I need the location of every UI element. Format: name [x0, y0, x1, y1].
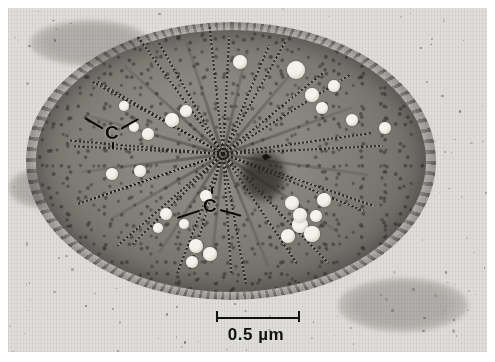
debris-fleck: [444, 151, 447, 153]
debris-fleck: [470, 142, 472, 144]
debris-fleck: [410, 13, 411, 14]
debris-fleck: [166, 313, 168, 316]
label-c-upper: C: [105, 123, 119, 142]
storage-globule: [165, 113, 179, 127]
debris-fleck: [334, 335, 335, 336]
debris-fleck: [282, 8, 284, 10]
storage-globule: [304, 226, 320, 242]
debris-fleck: [425, 346, 426, 347]
debris-fleck: [85, 305, 87, 307]
debris-fleck: [181, 346, 182, 347]
storage-globule: [287, 61, 305, 79]
debris-fleck: [400, 16, 402, 18]
storage-globule: [310, 210, 322, 222]
debris-fleck: [71, 268, 73, 271]
debris-fleck: [448, 188, 450, 189]
storage-globule: [119, 101, 129, 111]
debris-fleck: [441, 95, 444, 97]
debris-fleck: [26, 242, 29, 246]
debris-fleck: [12, 351, 13, 352]
scale-bar-line: [216, 317, 300, 319]
storage-globule: [233, 55, 247, 69]
storage-globule: [328, 80, 340, 92]
debris-fleck: [184, 341, 186, 344]
debris-fleck: [451, 152, 452, 153]
storage-globule: [189, 239, 203, 253]
debris-fleck: [454, 284, 456, 285]
debris-fleck: [482, 105, 484, 106]
debris-fleck: [234, 303, 237, 306]
storage-globule: [160, 208, 172, 220]
scale-bar-cap-right: [298, 311, 300, 322]
debris-fleck: [446, 282, 449, 284]
debris-fleck: [28, 45, 31, 47]
debris-fleck: [37, 11, 39, 12]
debris-fleck: [385, 298, 387, 301]
storage-globule: [305, 88, 319, 102]
debris-fleck: [426, 81, 428, 82]
debris-fleck: [112, 308, 114, 310]
debris-fleck: [484, 267, 485, 269]
storage-globule: [316, 102, 328, 114]
debris-fleck: [434, 294, 436, 297]
debris-fleck: [94, 293, 95, 294]
debris-fleck: [58, 257, 60, 259]
scale-bar: 0.5 µm: [208, 309, 304, 352]
debris-fleck: [27, 310, 28, 311]
debris-fleck: [353, 343, 354, 344]
debris-fleck: [117, 350, 119, 352]
debris-fleck: [176, 336, 178, 337]
debris-fleck: [176, 306, 177, 308]
debris-fleck: [29, 300, 31, 301]
storage-globule: [134, 165, 146, 177]
debris-fleck: [313, 321, 314, 322]
debris-fleck: [65, 255, 67, 257]
debris-fleck: [18, 39, 19, 41]
debris-fleck: [337, 316, 338, 317]
debris-fleck: [475, 294, 476, 295]
debris-fleck: [350, 327, 352, 329]
debris-fleck: [434, 140, 435, 141]
debris-fleck: [115, 288, 117, 290]
debris-fleck: [393, 271, 396, 274]
debris-fleck: [119, 321, 121, 324]
leader-tick: [112, 142, 114, 149]
debris-fleck: [47, 312, 48, 313]
debris-fleck: [391, 309, 393, 311]
debris-fleck: [9, 325, 11, 326]
debris-fleck: [311, 337, 312, 339]
storage-globule: [186, 256, 198, 268]
debris-fleck: [420, 47, 421, 49]
debris-fleck: [454, 139, 456, 140]
debris-fleck: [423, 317, 425, 319]
scale-bar-label: 0.5 µm: [208, 325, 304, 345]
debris-fleck: [26, 82, 29, 85]
debris-fleck: [439, 192, 440, 193]
debris-fleck: [54, 39, 56, 42]
storage-globule: [153, 223, 163, 233]
storage-globule: [346, 114, 358, 126]
debris-fleck: [468, 290, 470, 293]
debris-fleck: [473, 252, 474, 253]
debris-fleck: [443, 20, 445, 22]
debris-fleck: [26, 283, 28, 284]
label-c-lower: C: [203, 196, 217, 215]
debris-fleck: [328, 16, 330, 17]
debris-fleck: [461, 196, 463, 198]
debris-fleck: [452, 329, 455, 333]
debris-fleck: [456, 335, 457, 337]
storage-globule: [293, 208, 307, 222]
debris-fleck: [445, 271, 447, 274]
background-smear: [338, 278, 468, 332]
storage-globule: [317, 193, 331, 207]
debris-fleck: [29, 282, 30, 284]
storage-globule: [281, 229, 295, 243]
debris-fleck: [482, 141, 484, 143]
debris-fleck: [459, 110, 461, 112]
debris-fleck: [444, 310, 445, 312]
debris-fleck: [422, 239, 424, 241]
debris-fleck: [467, 309, 468, 310]
storage-globule: [179, 219, 189, 229]
debris-fleck: [431, 38, 433, 40]
electron-micrograph-figure: CC 0.5 µm: [0, 0, 495, 362]
